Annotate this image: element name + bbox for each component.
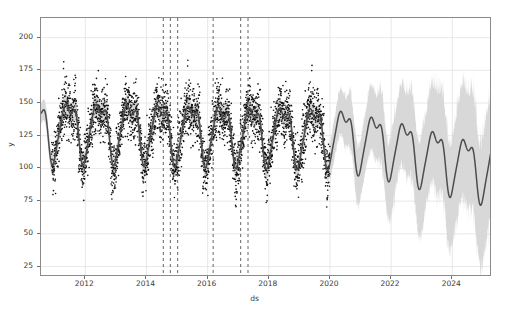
observation-point xyxy=(256,117,258,119)
observation-point xyxy=(173,154,175,156)
observation-point xyxy=(178,166,180,168)
observation-point xyxy=(142,173,144,175)
observation-point xyxy=(325,174,327,176)
observation-point xyxy=(75,77,77,79)
observation-point xyxy=(101,124,103,126)
observation-point xyxy=(180,157,182,159)
observation-point xyxy=(232,170,234,172)
observation-point xyxy=(280,91,282,93)
observation-point xyxy=(193,130,195,132)
observation-point xyxy=(99,130,101,132)
observation-point xyxy=(157,116,159,118)
observation-point xyxy=(191,94,193,96)
observation-point xyxy=(220,84,222,86)
observation-point xyxy=(70,107,72,109)
observation-point xyxy=(272,129,274,131)
observation-point xyxy=(111,176,113,178)
observation-point xyxy=(52,149,54,151)
observation-point xyxy=(259,131,261,133)
observation-point xyxy=(99,100,101,102)
observation-point xyxy=(187,133,189,135)
observation-point xyxy=(326,199,328,201)
observation-point xyxy=(286,127,288,129)
observation-point xyxy=(136,95,138,97)
observation-point xyxy=(160,137,162,139)
observation-point xyxy=(198,106,200,108)
observation-point xyxy=(62,100,64,102)
observation-point xyxy=(225,101,227,103)
observation-point xyxy=(192,112,194,114)
observation-point xyxy=(75,123,77,125)
observation-point xyxy=(95,128,97,130)
observation-point xyxy=(301,132,303,134)
observation-point xyxy=(59,105,61,107)
observation-point xyxy=(257,121,259,123)
observation-point xyxy=(96,88,98,90)
observation-point xyxy=(205,155,207,157)
observation-point xyxy=(111,185,113,187)
observation-point xyxy=(167,90,169,92)
observation-point xyxy=(141,133,143,135)
observation-point xyxy=(315,97,317,99)
observation-point xyxy=(235,179,237,181)
observation-point xyxy=(311,70,313,72)
observation-point xyxy=(180,112,182,114)
observation-point xyxy=(303,123,305,125)
observation-point xyxy=(274,147,276,149)
observation-point xyxy=(164,127,166,129)
observation-point xyxy=(64,95,66,97)
observation-point xyxy=(308,97,310,99)
observation-point xyxy=(149,108,151,110)
observation-point xyxy=(133,104,135,106)
observation-point xyxy=(316,146,318,148)
observation-point xyxy=(217,82,219,84)
observation-point xyxy=(210,125,212,127)
observation-point xyxy=(327,185,329,187)
observation-point xyxy=(160,141,162,143)
observation-point xyxy=(62,124,64,126)
observation-point xyxy=(156,87,158,89)
observation-point xyxy=(102,136,104,138)
observation-point xyxy=(249,86,251,88)
observation-point xyxy=(95,89,97,91)
observation-point xyxy=(175,180,177,182)
observation-point xyxy=(74,126,76,128)
observation-point xyxy=(295,186,297,188)
observation-point xyxy=(223,103,225,105)
observation-point xyxy=(135,117,137,119)
observation-point xyxy=(67,97,69,99)
observation-point xyxy=(302,129,304,131)
observation-point xyxy=(297,132,299,134)
observation-point xyxy=(294,140,296,142)
observation-point xyxy=(298,180,300,182)
observation-point xyxy=(99,133,101,135)
observation-point xyxy=(118,175,120,177)
observation-point xyxy=(70,142,72,144)
observation-point xyxy=(65,82,67,84)
observation-point xyxy=(153,92,155,94)
observation-point xyxy=(150,126,152,128)
observation-point xyxy=(171,116,173,118)
observation-point xyxy=(103,87,105,89)
observation-point xyxy=(125,99,127,101)
observation-point xyxy=(138,97,140,99)
observation-point xyxy=(123,124,125,126)
observation-point xyxy=(185,104,187,106)
observation-point xyxy=(181,153,183,155)
observation-point xyxy=(68,95,70,97)
observation-point xyxy=(145,171,147,173)
observation-point xyxy=(60,132,62,134)
observation-point xyxy=(180,98,182,100)
observation-point xyxy=(320,110,322,112)
observation-point xyxy=(314,153,316,155)
observation-point xyxy=(197,110,199,112)
x-tick-mark xyxy=(84,276,85,279)
observation-point xyxy=(68,140,70,142)
observation-point xyxy=(281,123,283,125)
observation-point xyxy=(297,144,299,146)
observation-point xyxy=(311,137,313,139)
y-tick-label: 100 xyxy=(0,162,33,171)
observation-point xyxy=(132,123,134,125)
observation-point xyxy=(265,156,267,158)
observation-point xyxy=(53,168,55,170)
